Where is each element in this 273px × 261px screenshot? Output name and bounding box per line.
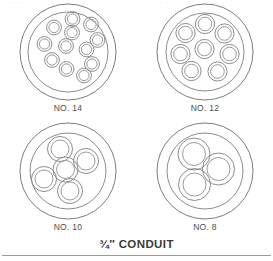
wire-conductor — [67, 27, 77, 37]
wire-conductor — [179, 26, 193, 40]
conduit-drawing-no-12 — [155, 2, 255, 102]
conduit-label-no-12: NO. 12 — [137, 103, 273, 113]
wire-conductor — [198, 42, 212, 56]
wire-conductor — [77, 152, 95, 170]
conduit-cell-no-10: NO. 10 — [0, 121, 136, 241]
bottom-divider — [2, 255, 271, 256]
conduit-label-no-10: NO. 10 — [0, 222, 136, 232]
wire-conductor — [92, 35, 102, 45]
conduit-drawing-no-10 — [18, 121, 118, 221]
conduit-cell-no-14: NO. 14 — [0, 2, 136, 122]
wire-conductor — [39, 39, 49, 49]
conduit-grid: NO. 14 NO. 12 NO. 10 NO. 8 — [0, 0, 273, 245]
conduit-outer-wall — [157, 123, 253, 219]
wire-conductor — [198, 17, 212, 31]
wire-conductor — [86, 19, 96, 29]
wire-conductor — [35, 170, 53, 188]
conduit-fill-figure: ·· ·· · · · NO. 14 NO. 12 NO. 10 NO. 8 ¾… — [0, 0, 273, 261]
conduit-inner-wall — [167, 133, 243, 209]
conduit-inner-wall — [166, 13, 244, 91]
wire-conductor — [174, 47, 188, 61]
conduit-cell-no-12: NO. 12 — [137, 2, 273, 122]
conduit-label-no-14: NO. 14 — [0, 103, 136, 113]
wire-conductor — [61, 64, 71, 74]
wire-conductor — [87, 59, 97, 69]
conduit-drawing-no-14 — [18, 2, 118, 102]
wire-conductor — [183, 143, 206, 166]
wire-conductor — [185, 64, 199, 78]
wire-conductor — [79, 70, 89, 80]
wire-conductor — [47, 55, 57, 65]
wire-conductor — [51, 140, 69, 158]
conduit-cell-no-8: NO. 8 — [137, 121, 273, 241]
conduit-outer-wall — [20, 4, 116, 100]
wire-conductor — [67, 14, 77, 24]
wire-conductor — [211, 65, 225, 79]
conduit-label-no-8: NO. 8 — [137, 222, 273, 232]
wire-conductor — [183, 173, 206, 196]
wire-conductor — [61, 182, 79, 200]
figure-caption: ¾″ CONDUIT — [0, 238, 273, 250]
wire-conductor — [223, 47, 237, 61]
wire-conductor — [207, 158, 230, 181]
wire-conductor — [218, 27, 232, 41]
wire-conductor — [81, 44, 91, 54]
wire-conductor — [57, 161, 75, 179]
wire-conductor — [61, 41, 71, 51]
wire-conductor — [49, 22, 59, 32]
conduit-drawing-no-8 — [155, 121, 255, 221]
